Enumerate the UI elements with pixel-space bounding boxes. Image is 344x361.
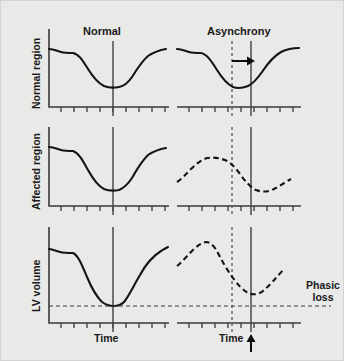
curve-affected-region-asynchrony — [177, 158, 291, 192]
x-axis-label-left: Time — [94, 333, 118, 345]
figure-panel: Normal Asynchrony Normal region Affected… — [0, 0, 344, 361]
axes-lv-volume-asynchrony — [177, 227, 301, 332]
curve-normal-region-normal — [49, 49, 166, 88]
phasic-loss-annotation: Phasic loss — [303, 279, 343, 304]
axes-affected-region-normal — [49, 127, 169, 215]
column-title-asynchrony: Asynchrony — [207, 25, 271, 37]
axes-lv-volume-normal — [49, 227, 169, 332]
diagram-canvas — [1, 1, 344, 361]
up-arrow-marker-icon — [247, 334, 256, 352]
column-title-normal: Normal — [83, 25, 121, 37]
x-axis-label-right: Time — [219, 333, 243, 345]
y-axis-label-affected-region: Affected region — [31, 133, 43, 210]
y-axis-label-normal-region: Normal region — [31, 38, 43, 109]
curve-normal-region-asynchrony — [177, 48, 299, 88]
curve-affected-region-normal — [49, 147, 166, 191]
phasic-loss-line-2: loss — [312, 291, 333, 303]
curve-lv-volume-asynchrony — [177, 242, 284, 294]
axes-normal-region-normal — [49, 29, 169, 116]
y-axis-label-lv-volume: LV volume — [31, 260, 43, 312]
curve-lv-volume-normal — [49, 247, 168, 306]
phasic-loss-line-1: Phasic — [306, 279, 340, 291]
